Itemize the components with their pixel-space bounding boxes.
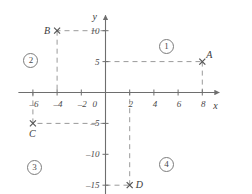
point-label-D: D — [136, 180, 143, 190]
origin-label: 0 — [93, 100, 98, 109]
point-label-A: A — [206, 50, 212, 60]
y-tick-label: 10 — [82, 27, 100, 36]
x-tick-label: 6 — [173, 100, 185, 109]
coordinate-plane-figure: –6–4–22468105–5–10–150xyABCD1234 — [0, 0, 252, 194]
y-tick-label: –15 — [82, 181, 100, 190]
point-label-C: C — [29, 129, 36, 139]
x-tick-label: 2 — [125, 100, 137, 109]
quadrant-label-q3: 3 — [27, 160, 42, 175]
y-axis-label: y — [93, 12, 97, 22]
x-tick-label: –4 — [52, 100, 64, 109]
x-axis-label: x — [213, 101, 217, 111]
y-tick-label: 5 — [82, 58, 100, 67]
x-tick-label: –6 — [28, 100, 40, 109]
x-tick-label: –2 — [76, 100, 88, 109]
point-label-B: B — [44, 26, 50, 36]
x-tick-label: 8 — [197, 100, 209, 109]
y-tick-label: –10 — [82, 150, 100, 159]
quadrant-label-q1: 1 — [159, 39, 174, 54]
x-tick-label: 4 — [149, 100, 161, 109]
y-tick-label: –5 — [82, 119, 100, 128]
